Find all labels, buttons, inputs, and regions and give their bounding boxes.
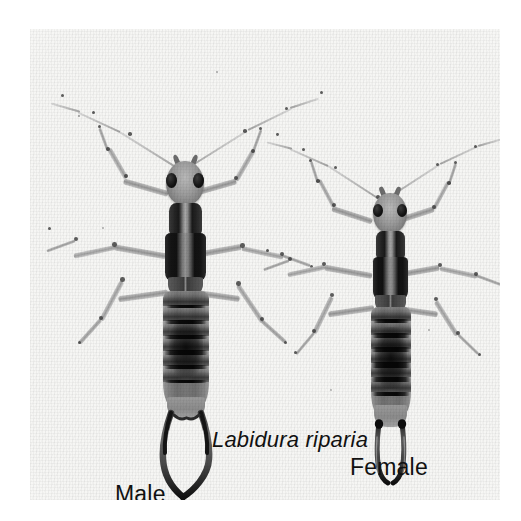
specimen-photograph: Labidura riparia Male Female <box>30 29 500 500</box>
figure-root: Labidura riparia Male Female <box>0 0 521 521</box>
male-caption-label: Male <box>115 481 166 500</box>
species-name-label: Labidura riparia <box>212 427 368 453</box>
female-caption-label: Female <box>350 454 428 481</box>
